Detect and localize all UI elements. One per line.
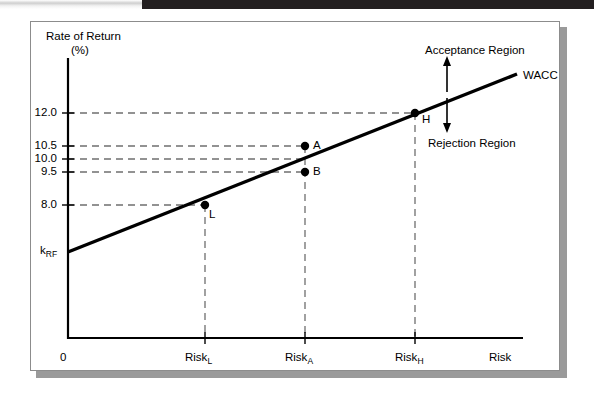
y-tick-label-10-0: 10.0 — [20, 153, 57, 165]
risk-a-main-text: Risk — [285, 351, 307, 363]
risk-a-sub-text: A — [307, 356, 313, 366]
risk-h-sub-text: H — [417, 356, 423, 366]
figure-frame — [30, 21, 560, 371]
acceptance-region-label: Acceptance Region — [425, 45, 525, 57]
rejection-region-label: Rejection Region — [428, 138, 516, 150]
figure-shadow-right — [560, 27, 567, 377]
page-header-band — [0, 0, 594, 9]
krf-intercept-label: kRF — [40, 245, 57, 259]
x-tick-label-risk-a: RiskA — [285, 352, 313, 366]
x-tick-label-risk-h: RiskH — [395, 352, 424, 366]
y-axis-title: Rate of Return — [46, 31, 121, 43]
risk-l-sub-text: L — [207, 356, 212, 366]
header-band-left-gradient — [0, 0, 142, 9]
data-point-label-L: L — [209, 209, 215, 221]
origin-label: 0 — [60, 352, 66, 364]
figure-shadow-bottom — [36, 371, 567, 378]
data-point-label-A: A — [313, 140, 321, 152]
header-band-right-solid — [142, 0, 594, 9]
y-tick-label-9-5: 9.5 — [20, 166, 57, 178]
data-point-label-B: B — [313, 166, 321, 178]
risk-h-main-text: Risk — [395, 351, 417, 363]
x-axis-title: Risk — [489, 352, 511, 364]
y-tick-label-10-5: 10.5 — [20, 140, 57, 152]
krf-sub-text: RF — [46, 249, 57, 259]
risk-l-main-text: Risk — [185, 351, 207, 363]
x-tick-label-risk-l: RiskL — [185, 352, 212, 366]
y-tick-label-12-0: 12.0 — [20, 107, 57, 119]
y-axis-unit: (%) — [71, 45, 89, 57]
data-point-label-H: H — [422, 114, 430, 126]
y-tick-label-8-0: 8.0 — [20, 199, 57, 211]
wacc-series-label: WACC — [523, 70, 558, 82]
